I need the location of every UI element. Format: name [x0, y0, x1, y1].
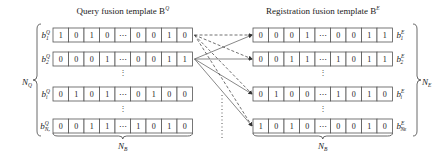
bit-value: 0	[136, 90, 140, 99]
bit-value: 0	[274, 55, 278, 64]
bit-value: 0	[336, 122, 340, 131]
registration-count-label: NE	[421, 77, 432, 88]
bit-value: 0	[90, 90, 94, 99]
bit-value: 0	[152, 31, 156, 40]
bit-value: 1	[367, 55, 371, 64]
bit-value: 0	[74, 122, 78, 131]
registration-template-title: Registration fusion template BE	[266, 5, 380, 16]
row-label: bQNᵩ	[40, 120, 50, 132]
query-width-label: NB	[117, 141, 128, 152]
bit-value: 1	[136, 122, 140, 131]
bit-value: 0	[105, 31, 109, 40]
bit-value: 1	[90, 122, 94, 131]
row-label: bQ2	[42, 53, 51, 65]
matching-arrows	[195, 35, 253, 140]
query-template-title: Query fusion template BQ	[76, 5, 169, 16]
bit-value: 0	[290, 90, 294, 99]
bit-value: 1	[167, 55, 171, 64]
bit-value: 1	[259, 122, 263, 131]
bit-value: 0	[183, 90, 187, 99]
bit-value: 1	[74, 90, 78, 99]
query-row-4: 0011⋯1010	[53, 119, 193, 133]
bit-value: ⋯	[119, 90, 127, 99]
registration-row-4: 1010⋯0010	[253, 119, 393, 133]
row-label: bE1	[397, 29, 406, 41]
row-ellipsis: ⋮	[119, 104, 127, 113]
registration-template-grid: 0001⋯00110011⋯10110100⋯10101010⋯0010⋮⋮bE…	[253, 28, 407, 133]
bit-value: 0	[305, 90, 309, 99]
bit-value: 0	[74, 55, 78, 64]
query-template-grid: 1010⋯00100001⋯00110101⋯01000011⋯1010⋮⋮bQ…	[40, 28, 192, 133]
bit-value: 1	[152, 90, 156, 99]
bit-value: 0	[352, 31, 356, 40]
bit-value: 1	[274, 90, 278, 99]
bit-value: 0	[259, 31, 263, 40]
bit-value: 1	[305, 55, 309, 64]
bit-value: ⋯	[319, 55, 327, 64]
query-row-2: 0001⋯0011	[53, 52, 193, 66]
bit-value: 1	[367, 31, 371, 40]
bit-value: 1	[305, 31, 309, 40]
bit-value: 0	[183, 122, 187, 131]
bit-value: 1	[367, 90, 371, 99]
bit-value: 1	[105, 55, 109, 64]
bit-value: ⋯	[319, 31, 327, 40]
bit-value: 0	[152, 122, 156, 131]
bit-value: 0	[183, 31, 187, 40]
row-ellipsis: ⋮	[319, 68, 327, 77]
bit-value: 1	[167, 122, 171, 131]
bit-value: 1	[336, 55, 340, 64]
bit-value: ⋯	[319, 122, 327, 131]
row-label: bQ1	[42, 29, 51, 41]
bit-value: 0	[352, 90, 356, 99]
row-count-brace	[33, 24, 41, 136]
bit-value: 1	[367, 122, 371, 131]
bit-value: 1	[167, 31, 171, 40]
query-row-3: 0101⋯0100	[53, 87, 193, 101]
bit-value: 0	[59, 90, 63, 99]
bit-value: 0	[336, 31, 340, 40]
row-ellipsis: ⋮	[319, 104, 327, 113]
bit-value: 0	[274, 122, 278, 131]
registration-row-2: 0011⋯1011	[253, 52, 393, 66]
bit-value: 0	[383, 122, 387, 131]
bit-value: 0	[152, 55, 156, 64]
registration-width-label: NB	[317, 141, 328, 152]
bit-value: ⋯	[119, 55, 127, 64]
bit-value: 0	[167, 90, 171, 99]
row-label: bENᴇ	[397, 120, 408, 132]
bit-value: 0	[290, 31, 294, 40]
bit-value: 1	[183, 55, 187, 64]
bit-value: 0	[90, 55, 94, 64]
row-ellipsis: ⋮	[119, 68, 127, 77]
bit-value: 1	[90, 31, 94, 40]
bit-value: 0	[59, 55, 63, 64]
bit-value: 0	[352, 122, 356, 131]
bit-width-brace	[253, 133, 393, 139]
bit-value: 1	[105, 90, 109, 99]
registration-row-3: 0100⋯1010	[253, 87, 393, 101]
bit-value: 0	[74, 31, 78, 40]
row-count-brace	[413, 24, 421, 136]
fusion-template-diagram: Query fusion template BQRegistration fus…	[0, 0, 445, 156]
query-row-1: 1010⋯0010	[53, 28, 193, 42]
bit-value: ⋯	[319, 90, 327, 99]
bit-value: ⋯	[119, 31, 127, 40]
bit-value: ⋯	[119, 122, 127, 131]
row-label: bQi	[42, 88, 51, 100]
bit-value: 0	[274, 31, 278, 40]
bit-value: 1	[59, 31, 63, 40]
bit-value: 1	[290, 122, 294, 131]
row-label: bE2	[397, 53, 406, 65]
bit-value: 0	[59, 122, 63, 131]
bit-value: 1	[105, 122, 109, 131]
query-count-label: NQ	[21, 77, 32, 88]
registration-row-1: 0001⋯0011	[253, 28, 393, 42]
bit-value: 0	[259, 90, 263, 99]
bit-value: 0	[136, 55, 140, 64]
bit-value: 0	[305, 122, 309, 131]
row-label: bEi	[397, 88, 406, 100]
bit-value: 1	[383, 55, 387, 64]
bit-width-brace	[53, 133, 193, 139]
bit-value: 0	[383, 90, 387, 99]
